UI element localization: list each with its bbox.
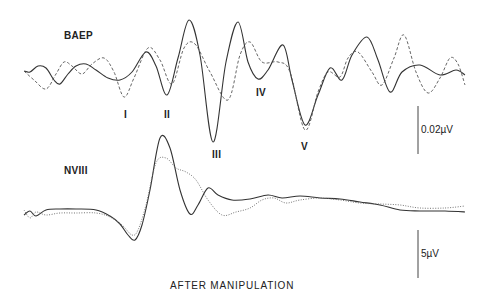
scale-label-top: 0.02µV — [421, 124, 453, 135]
nviii-dotted-trace — [24, 157, 465, 235]
peak-i-label: I — [124, 109, 127, 120]
baep-dashed-trace — [24, 35, 465, 130]
waveform-plot — [0, 0, 488, 305]
nviii-solid-trace — [24, 135, 465, 240]
nviii-label: NVIII — [64, 165, 88, 176]
peak-v-label: V — [301, 141, 308, 152]
peak-iv-label: IV — [256, 87, 266, 98]
peak-iii-label: III — [212, 149, 221, 160]
nviii-traces — [24, 135, 465, 240]
peak-ii-label: II — [164, 109, 170, 120]
baep-label: BAEP — [64, 30, 93, 41]
figure-caption: AFTER MANIPULATION — [170, 280, 294, 291]
scale-label-bottom: 5µV — [421, 248, 439, 259]
